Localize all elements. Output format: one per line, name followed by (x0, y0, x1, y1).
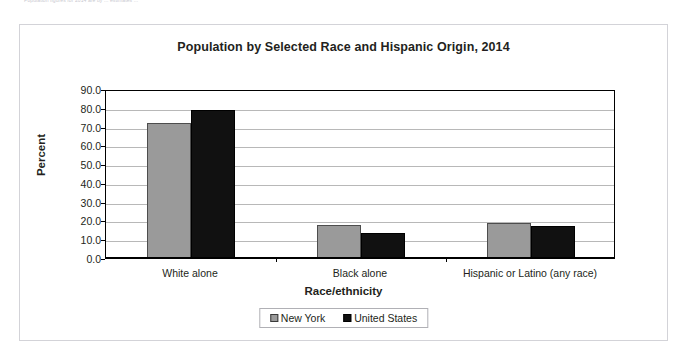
plot-area (105, 90, 615, 259)
chart-legend: New YorkUnited States (259, 308, 428, 328)
bar-united-states[interactable] (361, 233, 405, 258)
bar-united-states[interactable] (191, 110, 235, 258)
y-axis-tick-label: 60.0 (59, 140, 101, 152)
y-axis-tick-label: 70.0 (59, 122, 101, 134)
y-axis-tick-label: 40.0 (59, 178, 101, 190)
x-axis-category-label: Hispanic or Latino (any race) (463, 267, 597, 279)
bar-united-states[interactable] (531, 226, 575, 258)
y-axis-tick-label: 0.0 (59, 253, 101, 265)
y-axis-title: Percent (35, 100, 47, 210)
legend-label: New York (281, 312, 325, 324)
y-axis-tick-label: 20.0 (59, 215, 101, 227)
x-axis-tick-mark (276, 258, 277, 262)
y-axis-tick-label: 50.0 (59, 159, 101, 171)
y-axis-tick-label: 30.0 (59, 197, 101, 209)
chart-title: Population by Selected Race and Hispanic… (20, 40, 667, 54)
x-axis-category-label: White alone (162, 267, 217, 279)
legend-item-united-states[interactable]: United States (343, 312, 417, 324)
legend-item-new-york[interactable]: New York (270, 312, 325, 324)
legend-label: United States (354, 312, 417, 324)
bar-new-york[interactable] (147, 123, 191, 258)
y-axis-tick-mark (101, 259, 105, 260)
y-axis-tick-label: 80.0 (59, 103, 101, 115)
bar-new-york[interactable] (487, 223, 531, 258)
y-axis-tick-label: 90.0 (59, 84, 101, 96)
bar-group (276, 91, 446, 258)
y-axis-tick-labels: 90.080.070.060.050.040.030.020.010.00.0 (53, 90, 101, 259)
bar-new-york[interactable] (317, 225, 361, 258)
chart-card: Population by Selected Race and Hispanic… (19, 24, 668, 341)
axis-baseline (106, 257, 614, 258)
x-axis-category-label: Black alone (333, 267, 387, 279)
bar-group (106, 91, 276, 258)
bar-group (446, 91, 616, 258)
clipped-header-text: Population figures for 2014 are by ... e… (24, 0, 138, 3)
legend-swatch-icon (270, 314, 278, 322)
x-axis-tick-mark (446, 258, 447, 262)
legend-swatch-icon (343, 314, 351, 322)
y-axis-tick-label: 10.0 (59, 234, 101, 246)
x-axis-title: Race/ethnicity (20, 285, 667, 297)
